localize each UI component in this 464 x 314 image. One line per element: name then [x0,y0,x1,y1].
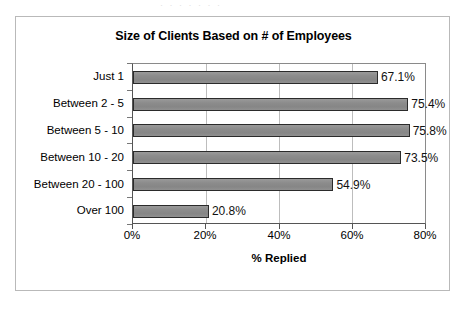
bar-between-2-5: 75.4% [133,98,408,111]
bar-over-100: 20.8% [133,205,209,218]
bar-value-between-5-10: 75.8% [413,124,447,138]
y-axis-label-over-100: Over 100 [16,197,128,224]
bar-value-between-20-100: 54.9% [336,178,370,192]
chart-screenshot: · · · · · · · Size of Clients Based on #… [0,0,464,314]
bar-row-over-100: 20.8% [133,198,425,225]
y-axis-label-between-2-5: Between 2 - 5 [16,90,128,117]
bar-row-between-10-20: 73.5% [133,144,425,171]
bar-just-1: 67.1% [133,71,378,84]
plot-area: 67.1% 75.4% 75.8% 73.5% [132,63,426,224]
bar-row-between-20-100: 54.9% [133,171,425,198]
bar-row-between-5-10: 75.8% [133,118,425,145]
y-axis-label-just-1: Just 1 [16,63,128,90]
y-axis-label-between-20-100: Between 20 - 100 [16,170,128,197]
bar-between-20-100: 54.9% [133,178,333,191]
x-axis-label-20: 20% [193,229,216,241]
x-axis-label-60: 60% [340,229,363,241]
bar-value-just-1: 67.1% [381,70,415,84]
chart-frame: Size of Clients Based on # of Employees … [15,16,450,291]
x-axis-label-80: 80% [413,229,436,241]
y-axis-labels: Just 1 Between 2 - 5 Between 5 - 10 Betw… [16,63,128,224]
bar-row-just-1: 67.1% [133,64,425,91]
scan-artifact: · · · · · · · [160,0,360,9]
bar-value-over-100: 20.8% [212,204,246,218]
bar-value-between-2-5: 75.4% [411,97,445,111]
y-axis-label-between-10-20: Between 10 - 20 [16,143,128,170]
bar-rows: 67.1% 75.4% 75.8% 73.5% [133,64,425,223]
bar-row-between-2-5: 75.4% [133,91,425,118]
bar-between-5-10: 75.8% [133,124,410,137]
bar-between-10-20: 73.5% [133,151,401,164]
x-axis-label-0: 0% [124,229,141,241]
y-axis-label-between-5-10: Between 5 - 10 [16,117,128,144]
chart-title: Size of Clients Based on # of Employees [16,29,451,43]
x-axis-label-40: 40% [267,229,290,241]
x-axis-title: % Replied [132,252,426,264]
bar-value-between-10-20: 73.5% [404,151,438,165]
